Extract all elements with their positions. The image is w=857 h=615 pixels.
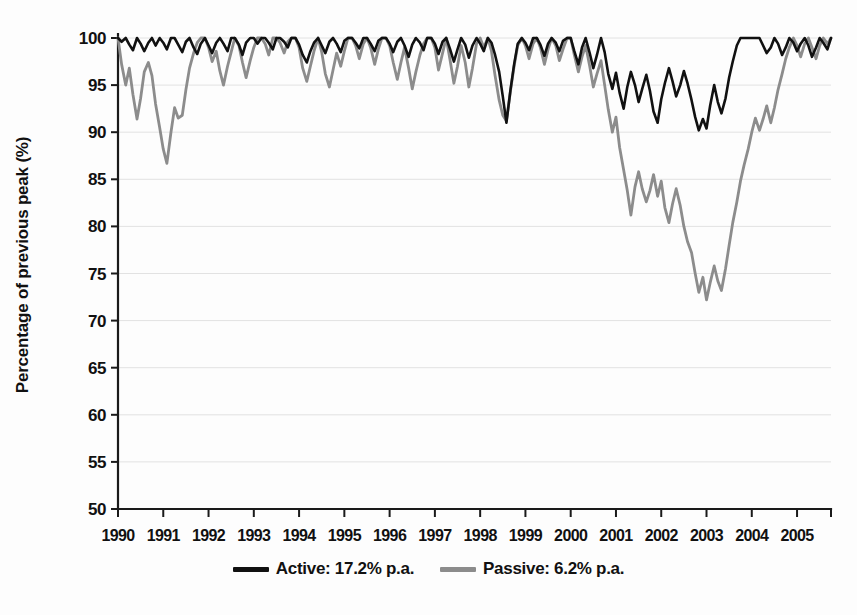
y-tick-label: 90 <box>88 123 106 142</box>
x-tick-label: 1992 <box>192 527 226 544</box>
y-tick-label: 70 <box>88 312 106 331</box>
y-tick-label: 60 <box>88 406 106 425</box>
x-tick-label: 1994 <box>282 527 316 544</box>
x-tick-label: 1995 <box>328 527 362 544</box>
legend-item-active: Active: 17.2% p.a. <box>233 559 414 579</box>
x-tick-label: 1998 <box>464 527 498 544</box>
legend-label-passive: Passive: 6.2% p.a. <box>483 559 624 579</box>
x-tick-label: 1999 <box>509 527 543 544</box>
x-tick-label: 2004 <box>735 527 769 544</box>
data-series-group <box>118 38 831 300</box>
x-tick-label: 1991 <box>147 527 181 544</box>
y-tick-label: 100 <box>79 29 106 48</box>
y-tick-label: 80 <box>88 217 106 236</box>
chart-plot-area: 10095908580757065605550 1990199119921993… <box>0 0 857 560</box>
legend-item-passive: Passive: 6.2% p.a. <box>440 559 624 579</box>
y-tick-label: 75 <box>88 265 106 284</box>
y-tick-label: 95 <box>88 76 106 95</box>
series-line-passive <box>118 38 831 300</box>
x-tick-label: 1990 <box>101 527 135 544</box>
x-tick-marks-group <box>118 509 831 517</box>
legend-swatch-active <box>233 567 269 572</box>
y-tick-label: 65 <box>88 359 106 378</box>
x-tick-label: 1996 <box>373 527 407 544</box>
x-tick-label: 1997 <box>418 527 452 544</box>
x-tick-label: 1993 <box>237 527 271 544</box>
drawdown-chart-figure: Percentage of previous peak (%) 10095908… <box>0 0 857 615</box>
x-tick-label: 2000 <box>554 527 588 544</box>
y-tick-label: 55 <box>88 453 106 472</box>
legend-label-active: Active: 17.2% p.a. <box>276 559 414 579</box>
legend-swatch-passive <box>440 567 476 572</box>
x-tick-label: 2005 <box>780 527 814 544</box>
y-tick-labels-group: 10095908580757065605550 <box>79 29 106 519</box>
y-tick-label: 85 <box>88 170 106 189</box>
x-tick-label: 2003 <box>690 527 724 544</box>
chart-legend: Active: 17.2% p.a. Passive: 6.2% p.a. <box>0 559 857 579</box>
y-tick-label: 50 <box>88 500 106 519</box>
x-tick-label: 2001 <box>599 527 633 544</box>
x-tick-label: 2002 <box>645 527 679 544</box>
x-tick-labels-group: 1990199119921993199419951996199719981999… <box>101 527 814 544</box>
